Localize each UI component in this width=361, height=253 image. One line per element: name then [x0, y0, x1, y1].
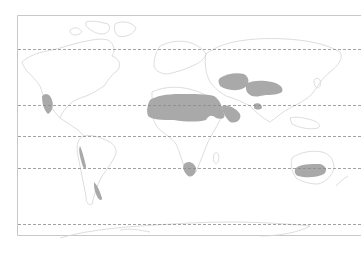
- central-america-outline: [60, 118, 84, 136]
- sahara-arabian-desert: [147, 94, 224, 122]
- north-american-desert: [42, 94, 53, 114]
- arabian-peninsula-desert: [222, 105, 240, 122]
- australian-desert: [295, 164, 326, 177]
- map-frame-border: [18, 16, 361, 236]
- latitude-lines: [18, 50, 361, 225]
- central-asian-desert: [219, 73, 249, 90]
- north-america-outline: [22, 39, 120, 118]
- land-outlines: [22, 21, 348, 238]
- world-map: [0, 0, 361, 253]
- thar-desert: [254, 103, 262, 109]
- namib-kalahari-desert: [183, 162, 196, 177]
- europe-outline: [154, 41, 206, 74]
- gobi-desert: [246, 81, 283, 97]
